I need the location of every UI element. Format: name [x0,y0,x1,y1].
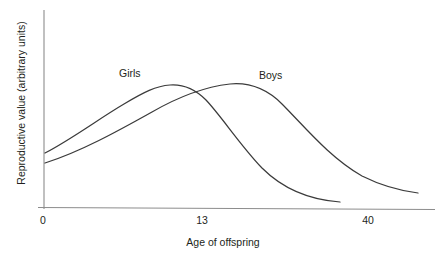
series-label-girls: Girls [119,68,141,79]
x-axis-line [38,208,435,210]
x-tick-label-40: 40 [356,215,380,226]
chart-figure: 0 13 40 Girls Boys Age of offspring Repr… [0,0,446,271]
plot-area [0,0,446,271]
x-tick-label-0: 0 [31,215,55,226]
x-tick-label-13: 13 [190,215,214,226]
series-label-boys: Boys [259,70,282,81]
series-curve-boys [45,84,418,193]
x-axis-title: Age of offspring [0,237,446,248]
y-axis-title-wrapper: Reproductive value (arbitrary units) [10,0,32,208]
series-curve-girls [45,85,340,202]
y-axis-title: Reproductive value (arbitrary units) [15,21,27,184]
